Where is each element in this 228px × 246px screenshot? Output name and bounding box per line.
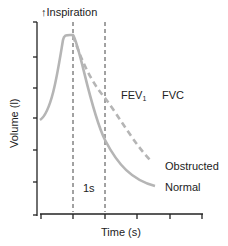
x-axis [40, 214, 203, 219]
y-axis-label: Volume (l) [8, 98, 20, 148]
fev1-label: FEV1 [121, 89, 146, 102]
spirometry-chart [0, 0, 228, 246]
fvc-label: FVC [162, 89, 184, 101]
inspiration-annotation: ↑Inspiration [41, 6, 97, 18]
interval-label: 1s [83, 182, 95, 194]
fev1-text: FEV [121, 89, 142, 101]
fev1-subscript: 1 [142, 95, 146, 102]
x-axis-label: Time (s) [101, 226, 141, 238]
y-axis [33, 22, 37, 216]
normal-curve [40, 35, 155, 186]
legend-normal: Normal [165, 181, 200, 193]
legend-obstructed: Obstructed [165, 160, 219, 172]
